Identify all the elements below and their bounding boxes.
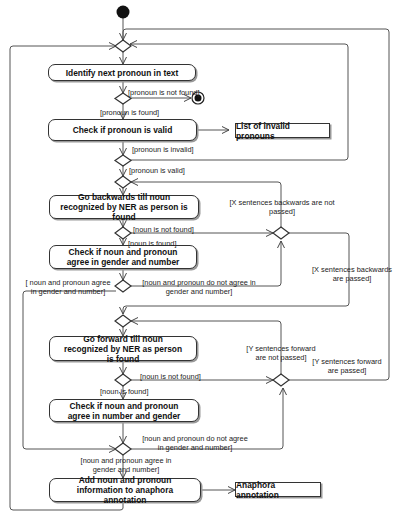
- merge-diamond: [115, 176, 131, 188]
- guard-label: [X sentences backwards are not passed]: [226, 198, 338, 216]
- activity-check-agree-backwards: Check if noun and pronoun agree in gende…: [49, 245, 197, 269]
- guard-label: [noun is not found]: [140, 372, 201, 381]
- decision-diamond: [115, 155, 131, 166]
- activity-go-backwards: Go backwards till noun recognized by NER…: [49, 195, 199, 219]
- merge-diamond: [115, 40, 131, 52]
- object-invalid-pronouns: List of invalid pronouns: [235, 123, 330, 138]
- guard-label: [Y sentences forward are passed]: [310, 357, 384, 375]
- guard-label: [pronoun is not found]: [128, 88, 200, 97]
- merge-diamond: [115, 315, 131, 327]
- guard-label: [X sentences backwards are passed]: [310, 265, 394, 283]
- object-anaphora-annotation: Anaphora annotation: [235, 482, 321, 497]
- decision-diamond: [115, 227, 131, 239]
- activity-identify-pronoun: Identify next pronoun in text: [48, 64, 196, 81]
- guard-label: [noun and pronoun do not agree in gender…: [140, 278, 258, 296]
- guard-label: [noun is found]: [128, 239, 177, 248]
- activity-add-anaphora: Add noun and pronoun information to anap…: [49, 478, 201, 502]
- merge-diamond: [115, 443, 131, 455]
- guard-label: [noun and pronoun do not agree in gender…: [140, 434, 250, 452]
- guard-label: [noun and pronoun agree in gender and nu…: [80, 456, 172, 474]
- guard-label: [Y sentences forward are not passed]: [242, 344, 320, 362]
- decision-diamond: [273, 374, 289, 386]
- guard-label: [noun is found]: [100, 387, 149, 396]
- activity-check-agree-forward: Check if noun and pronoun agree in numbe…: [49, 399, 199, 422]
- decision-diamond: [273, 227, 289, 239]
- guard-label: [pronoun is invalid]: [132, 145, 194, 154]
- decision-diamond: [115, 374, 131, 386]
- activity-go-forward: Go forward till noun recognized by NER a…: [49, 336, 197, 361]
- guard-label: [pronoun is valid]: [129, 166, 185, 175]
- initial-node-icon: [117, 6, 130, 19]
- guard-label: [noun is not found]: [133, 225, 194, 234]
- activity-check-pronoun-valid: Check if pronoun is valid: [48, 119, 197, 141]
- guard-label: [pronoun is found]: [100, 108, 159, 117]
- guard-label: [ noun and pronoun agree in gender and n…: [22, 278, 114, 296]
- decision-diamond: [115, 280, 131, 292]
